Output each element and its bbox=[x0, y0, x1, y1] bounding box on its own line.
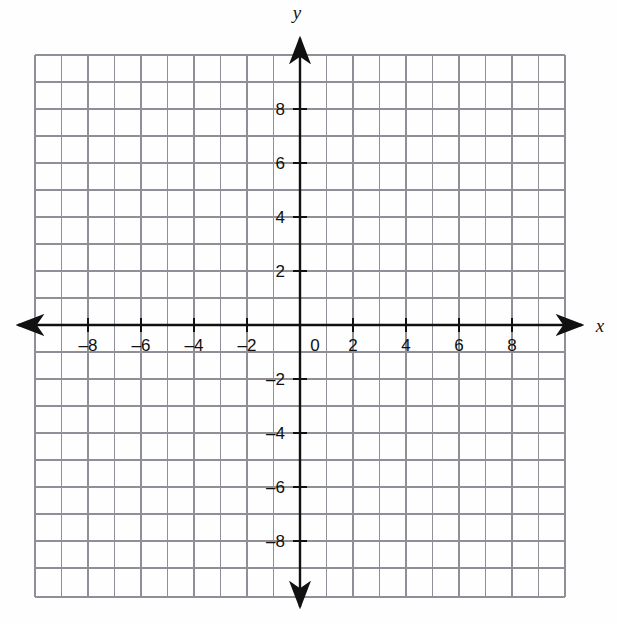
y-tick-label: 2 bbox=[276, 262, 285, 281]
y-tick-label: –6 bbox=[266, 478, 285, 497]
x-axis-label: x bbox=[595, 315, 605, 336]
y-tick-label: 4 bbox=[276, 208, 285, 227]
y-tick-label: –4 bbox=[266, 424, 285, 443]
x-tick-label: 6 bbox=[454, 336, 463, 355]
x-tick-label: –2 bbox=[238, 336, 257, 355]
y-tick-label: –8 bbox=[266, 532, 285, 551]
origin-tick-label: 0 bbox=[310, 336, 319, 355]
coordinate-plane-figure: practice work bbox=[0, 0, 617, 624]
x-tick-label: 8 bbox=[507, 336, 516, 355]
x-tick-label: –4 bbox=[185, 336, 204, 355]
x-tick-label: –8 bbox=[79, 336, 98, 355]
coordinate-grid-svg: –8 –6 –4 –2 0 2 4 6 8 8 6 4 2 –2 –4 –6 –… bbox=[0, 0, 617, 624]
x-tick-label: 2 bbox=[348, 336, 357, 355]
y-tick-label: –2 bbox=[266, 370, 285, 389]
x-tick-label: –6 bbox=[132, 336, 151, 355]
y-axis-label: y bbox=[291, 2, 302, 23]
x-tick-label: 4 bbox=[401, 336, 410, 355]
y-tick-label: 6 bbox=[276, 154, 285, 173]
y-tick-label: 8 bbox=[276, 100, 285, 119]
paper-background bbox=[0, 0, 617, 624]
